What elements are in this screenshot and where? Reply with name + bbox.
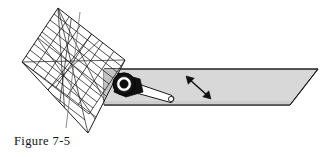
ramp-lower-band bbox=[104, 101, 291, 105]
link-arm-pin-hole bbox=[168, 96, 173, 101]
grid-shadow-polygon bbox=[22, 8, 125, 133]
grid-shadow-on-ramp bbox=[22, 8, 125, 133]
figure-caption: Figure 7-5 bbox=[14, 134, 70, 149]
hub-core bbox=[120, 80, 128, 88]
figure-container: Figure 7-5 bbox=[0, 0, 327, 157]
